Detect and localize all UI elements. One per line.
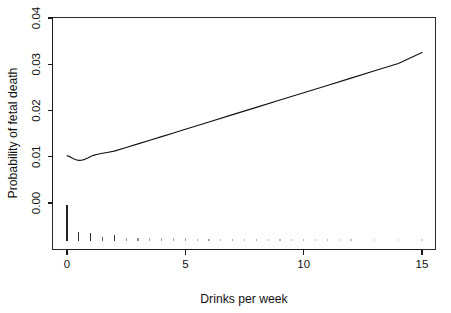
chart-figure: 0.000.010.020.030.04 051015 Probability … [0, 0, 451, 313]
y-tick-label-1: 0.01 [30, 146, 42, 168]
y-tick-label-0: 0.00 [30, 192, 42, 214]
y-tick-label-3: 0.03 [30, 53, 42, 75]
plot-canvas: 0.000.010.020.030.04 051015 Probability … [0, 0, 451, 313]
y-axis-title: Probability of fetal death [6, 68, 20, 199]
y-tick-label-4: 0.04 [30, 6, 42, 29]
x-axis-title: Drinks per week [200, 292, 288, 306]
x-tick-label-1: 5 [182, 258, 188, 270]
x-tick-label-2: 10 [297, 258, 310, 270]
x-tick-label-0: 0 [64, 258, 70, 270]
x-tick-label-3: 15 [416, 258, 429, 270]
y-tick-label-2: 0.02 [30, 99, 42, 121]
